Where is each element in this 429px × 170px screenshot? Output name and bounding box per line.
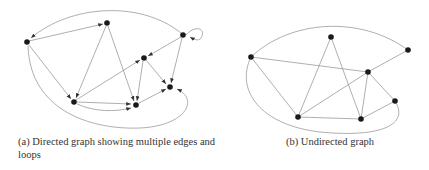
edge-a-f xyxy=(251,57,298,117)
edge-f-g xyxy=(298,117,361,119)
caption-a-line2: loops xyxy=(18,149,41,160)
edge-C-D xyxy=(148,37,181,56)
edge-d-g xyxy=(361,72,368,119)
node-f xyxy=(295,114,301,120)
edge-d-e xyxy=(368,72,395,101)
edge-A-F xyxy=(29,45,71,99)
edge-D-G xyxy=(137,61,143,101)
edge-G-E xyxy=(139,89,166,103)
node-c xyxy=(405,47,411,53)
node-A xyxy=(24,39,30,45)
node-a xyxy=(248,54,254,60)
edge-B-G xyxy=(108,26,134,101)
edge-F-D xyxy=(76,60,140,100)
edge-a-d xyxy=(251,57,368,72)
edge-B-F xyxy=(76,26,106,98)
node-g xyxy=(358,116,364,122)
node-b xyxy=(328,34,334,40)
edge-g-e xyxy=(361,101,395,119)
caption-directed-graph: (a) Directed graph showing multiple edge… xyxy=(18,135,218,161)
node-G xyxy=(133,102,139,108)
edge-C-E xyxy=(171,38,182,83)
undirected-graph xyxy=(246,26,411,133)
edge-c-d xyxy=(368,50,408,72)
node-C xyxy=(180,32,186,38)
edge-A-E xyxy=(28,46,188,128)
loop-C xyxy=(186,29,203,40)
directed-graph xyxy=(24,11,202,129)
node-d xyxy=(365,69,371,75)
edge-A-B xyxy=(29,24,103,41)
caption-undirected-graph: (b) Undirected graph xyxy=(286,135,374,148)
node-e xyxy=(392,98,398,104)
caption-a-line1: (a) Directed graph showing multiple edge… xyxy=(18,136,215,147)
edge-F-G-2 xyxy=(77,104,131,111)
node-B xyxy=(104,20,110,26)
edge-a-e xyxy=(246,57,399,133)
node-E xyxy=(167,84,173,90)
edge-b-g xyxy=(331,37,361,119)
edge-F-G-1 xyxy=(77,102,131,104)
node-D xyxy=(141,55,147,61)
node-F xyxy=(71,99,77,105)
edge-D-E xyxy=(146,60,166,84)
edge-b-f xyxy=(298,37,331,117)
